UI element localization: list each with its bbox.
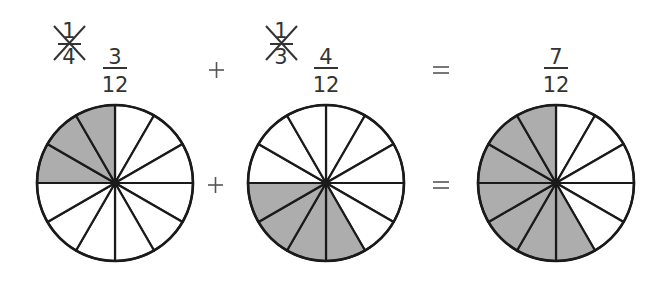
fraction-addition-diagram: 1 4 3 12 1 3 4 12 7 12	[0, 0, 665, 299]
numerator: 7	[549, 45, 562, 69]
center-point	[323, 180, 329, 186]
plus-sign-top	[209, 62, 224, 78]
numerator: 4	[319, 45, 332, 69]
center-point	[112, 180, 118, 186]
denominator: 12	[313, 73, 340, 97]
denominator: 12	[543, 73, 570, 97]
fraction-3-12: 3 12	[102, 45, 129, 97]
fraction-4-12: 4 12	[313, 45, 340, 97]
crossed-fraction-1-4: 1 4	[54, 19, 85, 69]
numerator: 3	[108, 45, 121, 69]
pie-circle-4-twelfths	[248, 105, 404, 261]
equals-sign-top	[433, 67, 449, 73]
crossed-fraction-1-3: 1 3	[266, 19, 297, 69]
denominator: 12	[102, 73, 129, 97]
fraction-7-12: 7 12	[543, 45, 570, 97]
pie-circle-7-twelfths	[478, 105, 634, 261]
pie-circle-3-twelfths	[37, 105, 193, 261]
plus-sign-middle	[208, 177, 223, 193]
equals-sign-middle	[433, 182, 449, 188]
center-point	[553, 180, 559, 186]
